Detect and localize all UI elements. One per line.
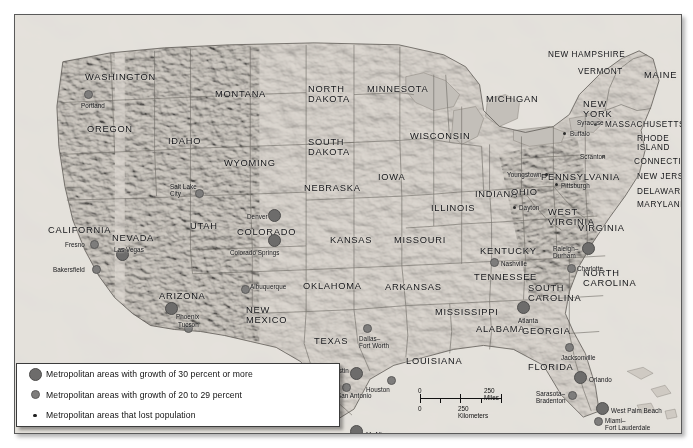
city-label-line: Portland [81, 102, 105, 109]
scale-tick-three-quarter [481, 398, 482, 403]
city-label: Nashville [501, 260, 527, 267]
state-label: IOWA [378, 173, 405, 182]
city-label: Orlando [589, 376, 612, 383]
state-label: COLORADO [237, 228, 296, 237]
state-label: WISCONSIN [410, 132, 470, 141]
state-label: MARYLAND [637, 201, 682, 209]
state-label: NEWMEXICO [246, 305, 287, 325]
state-label-line: MISSISSIPPI [435, 308, 499, 317]
city-label-line: Phoenix [176, 313, 199, 320]
state-label-line: GEORGIA [522, 327, 571, 336]
state-label-line: ISLAND [637, 144, 670, 153]
state-label-line: WASHINGTON [85, 73, 156, 82]
city-label-line: Atlanta [518, 317, 538, 324]
state-label: WASHINGTON [85, 73, 156, 82]
city-label-line: Fresno [65, 241, 85, 248]
city-label-line: West Palm Beach [611, 407, 662, 414]
state-label-line: LOUISIANA [406, 357, 462, 366]
city-dot [363, 324, 372, 333]
state-label-line: NEW JERSEY [637, 173, 682, 181]
state-label: WYOMING [224, 159, 276, 168]
state-label: NORTHDAKOTA [308, 84, 350, 104]
state-label-line: TENNESSEE [474, 273, 537, 282]
state-label: VERMONT [578, 68, 623, 76]
city-dot [342, 383, 351, 392]
city-label: Phoenix [176, 313, 199, 320]
state-label-line: NEW [246, 305, 287, 315]
city-dot [596, 402, 609, 415]
state-label-line: ARIZONA [159, 292, 206, 301]
city-dot [241, 285, 250, 294]
city-label: Dallas–Fort Worth [359, 335, 389, 349]
city-label-line: Pittsburgh [561, 182, 590, 189]
state-label-line: WEST [548, 207, 595, 217]
city-dot [594, 417, 603, 426]
city-dot [490, 258, 499, 267]
city-label-line: Syracuse [577, 119, 604, 126]
state-label-line: SOUTH [308, 137, 350, 147]
city-label-line: Youngstown [507, 171, 542, 178]
state-label: OHIO [511, 188, 538, 197]
city-dot [565, 343, 574, 352]
city-label-line: Colorado Springs [230, 249, 279, 256]
city-label-line: Nashville [501, 260, 527, 267]
state-label-line: MEXICO [246, 315, 287, 325]
city-label-line: City [170, 190, 197, 197]
state-label-line: MARYLAND [637, 201, 682, 209]
city-label-line: Dallas– [359, 335, 389, 342]
legend-dot-big [29, 368, 42, 381]
city-label-line: Miami– [605, 417, 650, 424]
city-dot [84, 90, 93, 99]
state-label-line: IOWA [378, 173, 405, 182]
state-label-line: OREGON [87, 125, 133, 134]
state-label: NEBRASKA [304, 184, 361, 193]
city-label-line: Raleigh– [553, 245, 578, 252]
city-dot [92, 265, 101, 274]
city-label: Houston [366, 386, 390, 393]
state-label: UTAH [190, 222, 218, 231]
state-label-line: NEVADA [112, 234, 154, 243]
city-label: Charlotte [577, 265, 603, 272]
city-label-line: Albuquerque [250, 283, 286, 290]
state-label: FLORIDA [528, 363, 574, 372]
state-label: CALIFORNIA [48, 226, 111, 235]
state-label: MISSISSIPPI [435, 308, 499, 317]
city-label: Pittsburgh [561, 182, 590, 189]
city-label-line: Fort Worth [359, 342, 389, 349]
state-label-line: OKLAHOMA [303, 282, 362, 291]
legend-key-swatch [24, 368, 46, 381]
state-label-line: COLORADO [237, 228, 296, 237]
city-label: Dayton [519, 204, 539, 211]
city-label-line: Bradenton [536, 397, 566, 404]
city-dot [268, 234, 281, 247]
scale-tick-mid [460, 394, 461, 403]
state-label-line: CAROLINA [528, 293, 582, 303]
state-label: SOUTHDAKOTA [308, 137, 350, 157]
city-label-line: Sarasota– [536, 390, 566, 397]
city-label: Raleigh–Durham [553, 245, 578, 259]
city-label-line: Las Vegas [114, 246, 144, 253]
city-dot [555, 183, 558, 186]
state-label-line: ARKANSAS [385, 283, 442, 292]
state-label: NEWYORK [583, 99, 612, 119]
city-label: Sarasota–Bradenton [536, 390, 566, 404]
scale-tick-quarter [440, 398, 441, 403]
city-label-line: Orlando [589, 376, 612, 383]
state-label-line: MONTANA [215, 90, 266, 99]
city-label-line: San Antonio [337, 392, 372, 399]
state-label-line: IDAHO [168, 137, 201, 146]
map-figure: WASHINGTONOREGONIDAHOMONTANANEVADACALIFO… [0, 0, 693, 448]
city-label: Youngstown [507, 171, 542, 178]
city-dot [567, 264, 576, 273]
legend-label: Metropolitan areas with growth of 30 per… [46, 369, 253, 379]
state-label: GEORGIA [522, 327, 571, 336]
state-label: NEW JERSEY [637, 173, 682, 181]
city-label-line: Charlotte [577, 265, 603, 272]
city-dot [517, 301, 530, 314]
state-label-line: MASSACHUSETTS [605, 121, 682, 129]
state-label-line: CALIFORNIA [48, 226, 111, 235]
legend-key-swatch [24, 414, 46, 417]
city-label-line: Denver [247, 213, 268, 220]
state-label-line: VERMONT [578, 68, 623, 76]
state-label: TEXAS [314, 337, 348, 346]
